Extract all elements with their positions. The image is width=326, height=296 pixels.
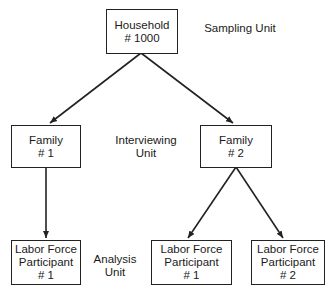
lfp-family1-1-node: Labor Force Participant # 1 bbox=[11, 240, 81, 285]
lfp-family2-2-node: Labor Force Participant # 2 bbox=[251, 240, 325, 285]
household-label: Household bbox=[115, 19, 170, 32]
edge-family2-lfp2 bbox=[236, 167, 283, 238]
analysis-unit-line1: Analysis bbox=[90, 253, 140, 266]
edge-family2-lfp1 bbox=[188, 167, 236, 238]
edge-household-family1 bbox=[50, 53, 141, 123]
lfp-f2-1-line2: Participant bbox=[164, 256, 218, 269]
interviewing-unit-line2: Unit bbox=[108, 147, 184, 160]
family-1-node: Family # 1 bbox=[11, 125, 81, 168]
family-1-label: Family bbox=[29, 134, 63, 147]
lfp-family2-1-node: Labor Force Participant # 1 bbox=[151, 240, 232, 285]
lfp-f1-1-line1: Labor Force bbox=[15, 243, 77, 256]
lfp-f2-2-line2: Participant bbox=[261, 256, 315, 269]
lfp-f2-2-number: # 2 bbox=[280, 269, 296, 282]
family-2-label: Family bbox=[219, 134, 253, 147]
lfp-f1-1-line2: Participant bbox=[19, 256, 73, 269]
interviewing-unit-line1: Interviewing bbox=[108, 134, 184, 147]
lfp-f1-1-number: # 1 bbox=[38, 269, 54, 282]
sampling-unit-label: Sampling Unit bbox=[200, 22, 280, 35]
edge-household-family2 bbox=[141, 53, 233, 123]
lfp-f2-1-line1: Labor Force bbox=[160, 243, 222, 256]
family-1-number: # 1 bbox=[38, 147, 54, 160]
family-2-number: # 2 bbox=[228, 147, 244, 160]
lfp-f2-2-line1: Labor Force bbox=[257, 243, 319, 256]
household-number: # 1000 bbox=[124, 32, 159, 45]
analysis-unit-line2: Unit bbox=[90, 266, 140, 279]
sampling-unit-text: Sampling Unit bbox=[204, 22, 276, 34]
lfp-f2-1-number: # 1 bbox=[184, 269, 200, 282]
household-node: Household # 1000 bbox=[106, 9, 178, 54]
family-2-node: Family # 2 bbox=[200, 125, 272, 168]
analysis-unit-label: Analysis Unit bbox=[90, 253, 140, 279]
interviewing-unit-label: Interviewing Unit bbox=[108, 134, 184, 160]
